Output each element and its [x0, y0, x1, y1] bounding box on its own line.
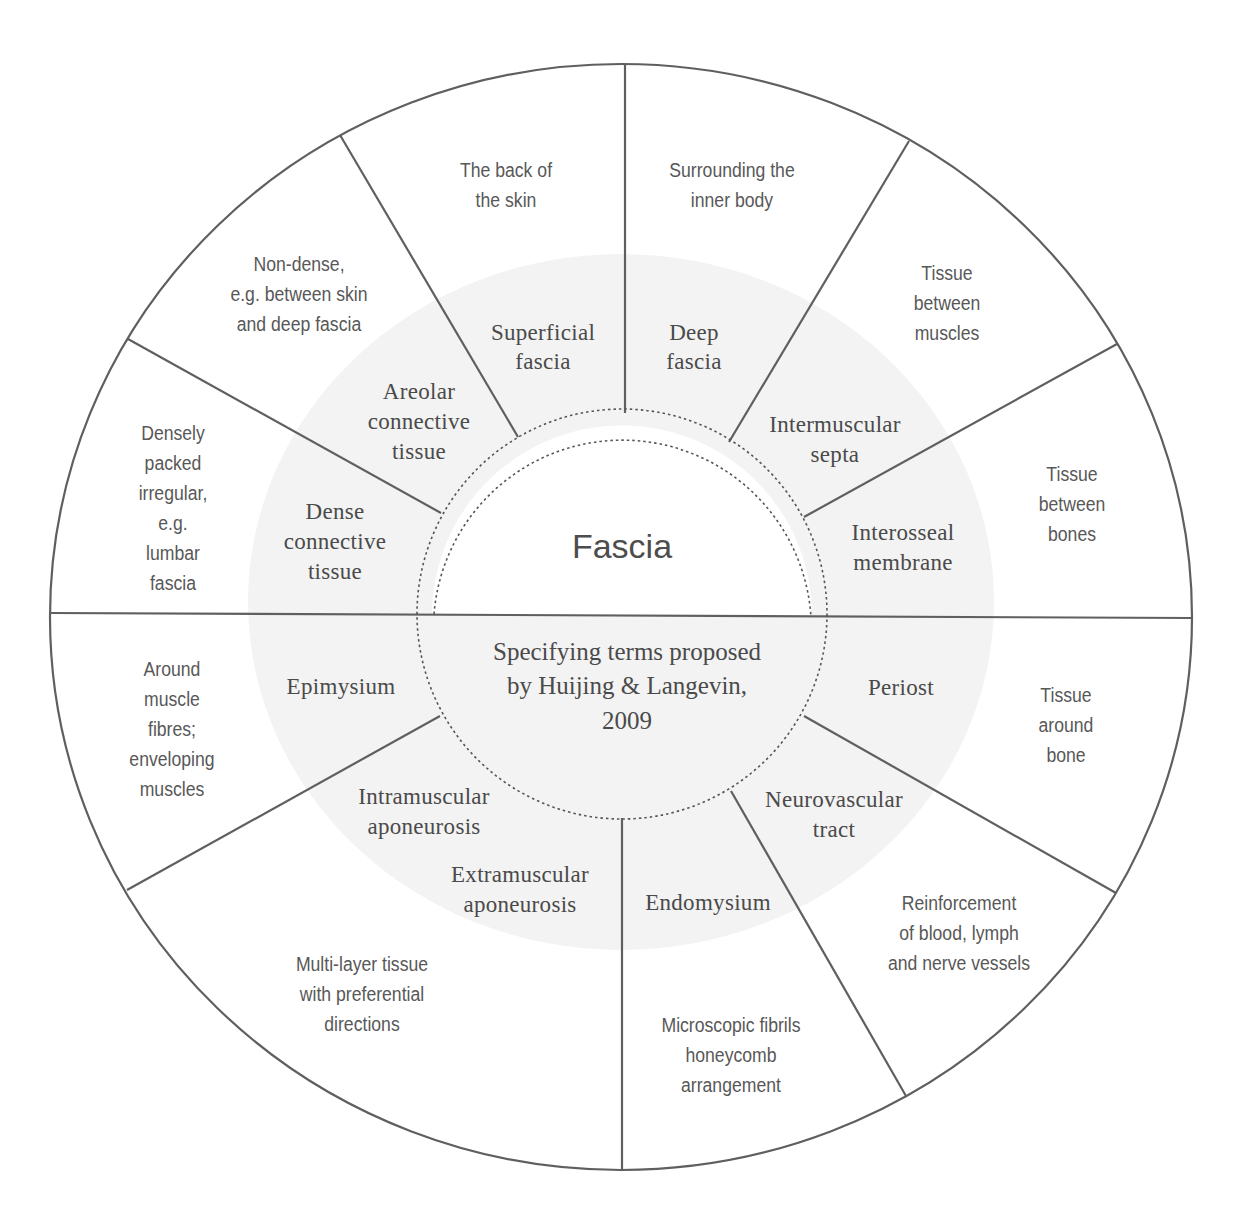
svg-text:aponeurosis: aponeurosis [367, 814, 480, 839]
svg-text:Superficial: Superficial [491, 320, 595, 345]
svg-text:inner body: inner body [691, 188, 774, 212]
svg-text:fascia: fascia [666, 349, 721, 374]
svg-text:fascia: fascia [150, 571, 196, 595]
svg-text:between: between [1039, 492, 1106, 516]
svg-text:membrane: membrane [853, 550, 952, 575]
svg-text:Surrounding the: Surrounding the [669, 158, 794, 182]
svg-text:irregular,: irregular, [139, 481, 208, 505]
svg-text:and deep fascia: and deep fascia [237, 312, 362, 336]
svg-text:e.g. between skin: e.g. between skin [230, 282, 367, 306]
svg-text:Around: Around [144, 657, 201, 681]
desc-densely-packed: Densely packed irregular, e.g. lumbar fa… [139, 421, 208, 595]
svg-text:2009: 2009 [602, 707, 652, 734]
desc-around-muscle-fibres: Around muscle fibres; enveloping muscles [129, 657, 214, 801]
desc-reinforcement-vessels: Reinforcement of blood, lymph and nerve … [888, 891, 1030, 975]
svg-text:Reinforcement: Reinforcement [902, 891, 1017, 915]
desc-tissue-between-muscles: Tissue between muscles [914, 261, 981, 345]
svg-text:Multi-layer tissue: Multi-layer tissue [296, 952, 428, 976]
svg-text:by Huijing & Langevin,: by Huijing & Langevin, [507, 672, 747, 699]
svg-text:Periost: Periost [868, 675, 934, 700]
svg-text:fibres;: fibres; [148, 717, 196, 741]
svg-text:Endomysium: Endomysium [645, 890, 771, 915]
svg-text:The back of: The back of [460, 158, 553, 182]
svg-text:Epimysium: Epimysium [287, 674, 396, 699]
svg-text:Tissue: Tissue [1040, 683, 1091, 707]
svg-text:Extramuscular: Extramuscular [451, 862, 589, 887]
svg-text:arrangement: arrangement [681, 1073, 781, 1097]
svg-text:tissue: tissue [392, 439, 446, 464]
svg-text:Microscopic fibrils: Microscopic fibrils [661, 1013, 800, 1037]
svg-text:enveloping: enveloping [129, 747, 214, 771]
svg-text:lumbar: lumbar [146, 541, 200, 565]
svg-text:the skin: the skin [476, 188, 537, 212]
svg-text:Deep: Deep [669, 320, 719, 345]
svg-text:bones: bones [1048, 522, 1096, 546]
svg-text:muscles: muscles [140, 777, 205, 801]
svg-text:Interosseal: Interosseal [852, 520, 955, 545]
svg-text:connective: connective [368, 409, 471, 434]
svg-text:aponeurosis: aponeurosis [463, 892, 576, 917]
svg-text:tract: tract [813, 817, 856, 842]
svg-text:and nerve vessels: and nerve vessels [888, 951, 1030, 975]
svg-text:muscles: muscles [915, 321, 980, 345]
svg-text:honeycomb: honeycomb [685, 1043, 776, 1067]
svg-text:Dense: Dense [306, 499, 365, 524]
svg-text:Intermuscular: Intermuscular [769, 412, 901, 437]
desc-multi-layer-tissue: Multi-layer tissue with preferential dir… [296, 952, 428, 1036]
svg-text:e.g.: e.g. [158, 511, 187, 535]
desc-non-dense: Non-dense, e.g. between skin and deep fa… [230, 252, 367, 336]
svg-text:Non-dense,: Non-dense, [253, 252, 344, 276]
svg-text:muscle: muscle [144, 687, 200, 711]
center-title: Fascia [572, 527, 672, 565]
svg-text:Areolar: Areolar [383, 379, 455, 404]
svg-text:fascia: fascia [515, 349, 570, 374]
svg-text:septa: septa [811, 442, 860, 467]
svg-text:Tissue: Tissue [921, 261, 972, 285]
svg-text:connective: connective [284, 529, 387, 554]
desc-microscopic-fibrils: Microscopic fibrils honeycomb arrangemen… [661, 1013, 800, 1097]
desc-tissue-between-bones: Tissue between bones [1039, 462, 1106, 546]
term-epimysium: Epimysium [287, 674, 396, 699]
svg-text:bone: bone [1046, 743, 1085, 767]
svg-text:Intramuscular: Intramuscular [358, 784, 490, 809]
svg-text:Densely: Densely [141, 421, 205, 445]
svg-text:tissue: tissue [308, 559, 362, 584]
desc-tissue-around-bone: Tissue around bone [1039, 683, 1094, 767]
svg-text:around: around [1039, 713, 1094, 737]
svg-text:Neurovascular: Neurovascular [765, 787, 903, 812]
svg-text:packed: packed [145, 451, 202, 475]
term-periost: Periost [868, 675, 934, 700]
svg-text:with preferential: with preferential [299, 982, 424, 1006]
term-endomysium: Endomysium [645, 890, 771, 915]
desc-back-of-skin: The back of the skin [460, 158, 553, 212]
fascia-wheel-diagram: Fascia Specifying terms proposed by Huij… [0, 0, 1239, 1224]
desc-surrounding-inner-body: Surrounding the inner body [669, 158, 794, 212]
svg-text:Tissue: Tissue [1046, 462, 1097, 486]
svg-text:of blood, lymph: of blood, lymph [899, 921, 1019, 945]
svg-text:directions: directions [324, 1012, 399, 1036]
svg-text:between: between [914, 291, 981, 315]
svg-text:Specifying terms proposed: Specifying terms proposed [493, 638, 762, 665]
